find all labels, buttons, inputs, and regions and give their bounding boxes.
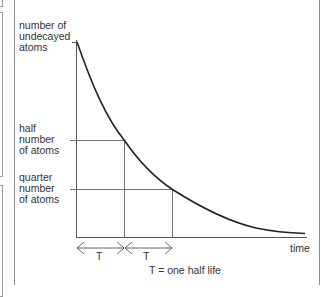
- y-axis-label: number of undecayed atoms: [19, 20, 70, 53]
- half-number-label: half number of atoms: [19, 123, 59, 156]
- interval-label-1: T: [96, 251, 102, 262]
- quarter-number-label: quarter number of atoms: [19, 172, 59, 205]
- decay-curve: [77, 42, 305, 234]
- x-axis-label: time: [290, 243, 310, 254]
- interval-label-2: T: [143, 251, 149, 262]
- half-life-caption: T = one half life: [149, 265, 221, 276]
